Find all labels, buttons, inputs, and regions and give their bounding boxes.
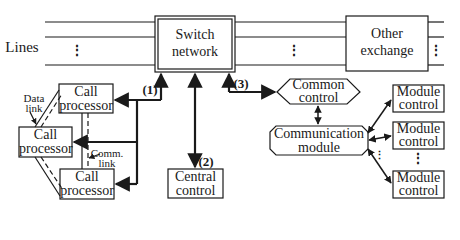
communication-module-label-2: module [270,141,368,155]
call-processor-bottom-label-1: Call [60,170,114,184]
central-control-label-1: Central [168,170,223,184]
call-processor-bottom-label-2: processor [60,184,114,198]
switch-network-label-2: network [155,45,235,59]
module-control-arrows [368,100,391,183]
call-processor-middle-label-1: Call [19,128,72,142]
lines-label: Lines [0,40,44,54]
comm-link-label-2: link [90,158,124,169]
module-control-1-label-2: control [393,98,444,112]
switch-network-label-1: Switch [155,28,235,42]
path-2-label: (2) [196,155,216,169]
path-3-label: (3) [231,77,251,91]
lines-ellipsis-right: ⋮ [429,44,443,58]
call-processor-middle-label-2: processor [19,142,72,156]
other-exchange-label-1: Other [346,27,428,41]
lines-ellipsis-left: ⋮ [70,44,84,58]
comm-module-ellipsis: ⋮ [372,148,386,162]
module-control-3-label-2: control [393,184,444,198]
call-processor-top-label-1: Call [59,85,113,99]
central-control-label-2: control [168,184,223,198]
module-control-2-label-2: control [393,135,444,149]
module-control-ellipsis: ⋮ [411,152,425,166]
communication-module-label-1: Communication [270,127,368,141]
data-link-label-2: link [22,103,46,114]
other-exchange-label-2: exchange [346,44,428,58]
lines-ellipsis-mid: ⋮ [287,44,301,58]
path-1-label: (1) [140,83,160,97]
call-processor-top-label-2: processor [59,99,113,113]
common-control-label-2: control [277,91,360,105]
